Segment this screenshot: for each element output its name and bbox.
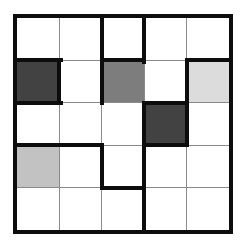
grid-cell-r0c3 [144,18,186,60]
grid-cell-r1c3 [144,60,186,102]
thick-border-v-c2r4 [142,186,146,230]
thick-border-h-r2c3 [142,143,188,147]
grid-cell-r0c2 [102,18,144,60]
thick-border-v-c2r0 [142,18,146,64]
thick-border-h-r1c3 [142,101,188,105]
puzzle-grid [13,14,233,234]
grid-cell-r4c4 [187,188,229,230]
grid-cell-r4c3 [144,188,186,230]
grid-cell-r0c0 [17,18,59,60]
grid-cell-r0c4 [187,18,229,60]
grid-cell-r3c4 [187,145,229,187]
thick-border-v-c1r1 [100,58,104,104]
grid-cell-r4c2 [102,188,144,230]
thin-grid-line-vertical-1 [59,18,60,230]
grid-cell-r1c1 [59,60,101,102]
thick-border-v-c1r3 [100,143,104,189]
grid-cell-r3c1 [59,145,101,187]
thick-border-v-c3r1 [185,58,189,104]
grid-cell-r4c1 [59,188,101,230]
grid-cell-r1c2 [102,60,144,102]
grid-cell-r2c1 [59,103,101,145]
grid-cell-r2c0 [17,103,59,145]
grid-cell-r2c3 [144,103,186,145]
thick-border-h-r2c1 [57,143,103,147]
grid-cell-r3c2 [102,145,144,187]
grid-cell-r3c0 [17,145,59,187]
grid-cell-r1c0 [17,60,59,102]
grid-cell-r2c2 [102,103,144,145]
thick-border-v-c3r2 [185,101,189,147]
grid-cell-r0c1 [59,18,101,60]
puzzle-image [0,0,244,252]
thick-border-v-c0r1 [57,58,61,104]
thick-border-h-r3c2 [100,186,146,190]
grid-cell-r2c4 [187,103,229,145]
grid-cell-r4c0 [17,188,59,230]
thick-border-h-r0c4 [185,58,229,62]
grid-cell-r3c3 [144,145,186,187]
thick-border-v-c2r2 [142,101,146,147]
thick-border-h-r0c2 [100,58,146,62]
thick-border-v-c2r3 [142,143,146,189]
grid-cell-r1c4 [187,60,229,102]
